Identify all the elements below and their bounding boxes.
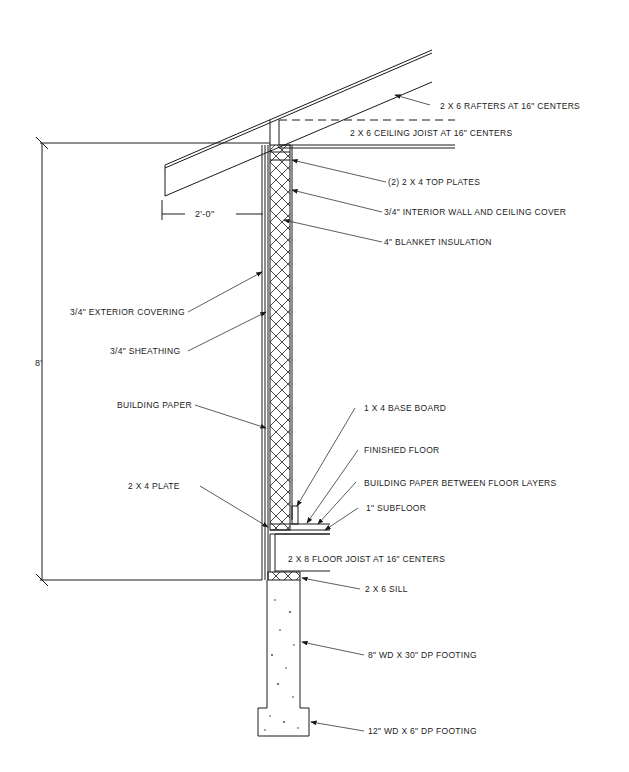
roof-rafter — [165, 50, 432, 196]
label-sill: 2 X 6 SILL — [365, 584, 408, 594]
wall-assembly — [262, 145, 292, 580]
foundation — [258, 580, 309, 736]
label-floor-joist: 2 X 8 FLOOR JOIST AT 16" CENTERS — [288, 554, 445, 564]
label-bottom-plate: 2 X 4 PLATE — [128, 481, 180, 491]
label-insulation: 4" BLANKET INSULATION — [384, 237, 492, 247]
label-exterior-covering: 3/4" EXTERIOR COVERING — [70, 307, 185, 317]
height-dimension — [36, 137, 270, 586]
label-foundation-wall: 8" WD X 30" DP FOOTING — [368, 650, 477, 660]
leaders-left — [188, 272, 268, 527]
label-floor-paper: BUILDING PAPER BETWEEN FLOOR LAYERS — [364, 478, 557, 488]
dimension-wall-height: 8' — [35, 358, 42, 368]
label-building-paper: BUILDING PAPER — [117, 400, 192, 410]
dimension-overhang: 2'-0" — [195, 209, 214, 219]
label-footing: 12" WD X 6" DP FOOTING — [368, 726, 477, 736]
label-rafters: 2 X 6 RAFTERS AT 16" CENTERS — [440, 101, 580, 111]
label-base-board: 1 X 4 BASE BOARD — [364, 403, 446, 413]
label-sheathing: 3/4" SHEATHING — [110, 346, 180, 356]
label-finished-floor: FINISHED FLOOR — [364, 445, 440, 455]
wall-section-drawing: 2 X 6 RAFTERS AT 16" CENTERS 2 X 6 CEILI… — [0, 0, 629, 772]
leaders-right — [284, 95, 430, 731]
label-top-plates: (2) 2 X 4 TOP PLATES — [388, 177, 480, 187]
label-interior-cover: 3/4" INTERIOR WALL AND CEILING COVER — [384, 207, 566, 217]
label-ceiling-joist: 2 X 6 CEILING JOIST AT 16" CENTERS — [350, 128, 513, 138]
label-subfloor: 1" SUBFLOOR — [366, 503, 426, 513]
